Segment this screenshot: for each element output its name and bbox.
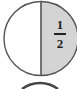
fraction-numerator: 1	[57, 17, 64, 32]
fraction-label: 1 2	[52, 18, 68, 50]
fraction-bar	[54, 33, 66, 35]
next-circle-partial	[22, 83, 58, 89]
fraction-denominator: 2	[57, 36, 64, 51]
